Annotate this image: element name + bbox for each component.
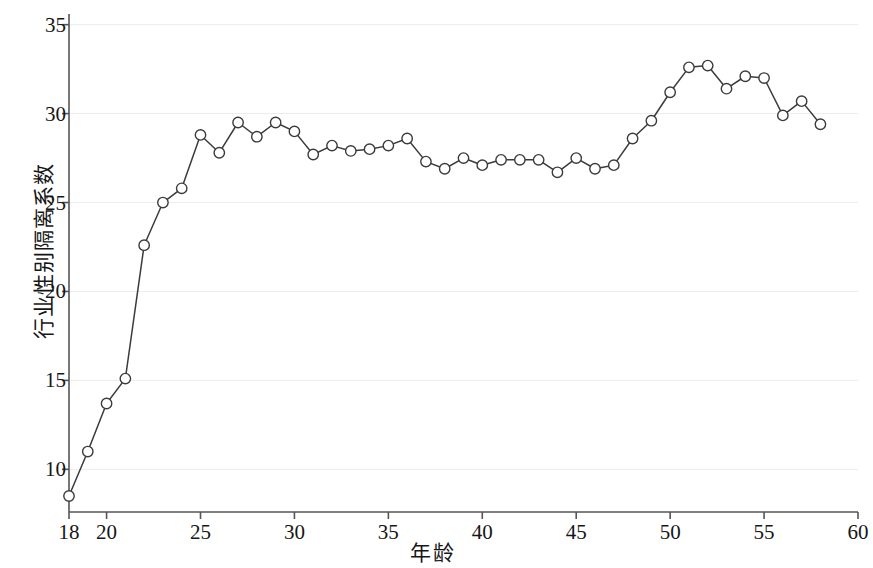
x-tick-label-60: 60 <box>828 520 873 545</box>
data-point-age-48 <box>627 133 637 143</box>
data-point-age-25 <box>195 130 205 140</box>
data-point-age-19 <box>83 446 93 456</box>
y-axis-tick-labels: 101520253035 <box>0 0 66 568</box>
y-tick-label-10: 10 <box>20 457 66 482</box>
tick-marks <box>62 25 858 519</box>
data-point-age-43 <box>533 155 543 165</box>
x-tick-label-30: 30 <box>264 520 324 545</box>
data-point-age-38 <box>440 164 450 174</box>
data-point-age-27 <box>233 117 243 127</box>
data-point-age-44 <box>552 167 562 177</box>
data-point-age-21 <box>120 373 130 383</box>
data-point-age-51 <box>684 62 694 72</box>
x-tick-label-25: 25 <box>171 520 231 545</box>
data-point-age-47 <box>609 160 619 170</box>
data-point-age-42 <box>515 155 525 165</box>
x-tick-label-45: 45 <box>546 520 606 545</box>
data-point-age-54 <box>740 71 750 81</box>
data-point-age-45 <box>571 153 581 163</box>
data-point-age-29 <box>270 117 280 127</box>
y-tick-label-30: 30 <box>20 101 66 126</box>
x-tick-label-35: 35 <box>358 520 418 545</box>
data-point-age-46 <box>590 164 600 174</box>
data-point-age-24 <box>177 183 187 193</box>
data-point-age-31 <box>308 149 318 159</box>
data-point-age-30 <box>289 126 299 136</box>
x-tick-label-55: 55 <box>734 520 794 545</box>
data-point-age-34 <box>364 144 374 154</box>
grid-lines <box>69 25 858 470</box>
data-point-age-22 <box>139 240 149 250</box>
x-axis-tick-labels: 18202530354045505560 <box>0 520 866 554</box>
data-point-age-28 <box>252 132 262 142</box>
series-markers <box>64 60 826 501</box>
data-point-age-53 <box>721 84 731 94</box>
data-point-age-55 <box>759 73 769 83</box>
data-point-age-41 <box>496 155 506 165</box>
data-point-age-49 <box>646 116 656 126</box>
data-point-age-26 <box>214 148 224 158</box>
data-series <box>64 60 826 501</box>
data-point-age-20 <box>101 398 111 408</box>
data-point-age-37 <box>421 156 431 166</box>
data-point-age-57 <box>796 96 806 106</box>
data-point-age-33 <box>346 146 356 156</box>
data-point-age-39 <box>458 153 468 163</box>
data-point-age-58 <box>815 119 825 129</box>
x-tick-label-50: 50 <box>640 520 700 545</box>
data-point-age-32 <box>327 140 337 150</box>
data-point-age-50 <box>665 87 675 97</box>
data-point-age-36 <box>402 133 412 143</box>
y-tick-label-25: 25 <box>20 190 66 215</box>
data-point-age-40 <box>477 160 487 170</box>
y-tick-label-15: 15 <box>20 368 66 393</box>
series-line-行业性别隔离系数 <box>69 66 820 496</box>
data-point-age-23 <box>158 197 168 207</box>
x-tick-label-40: 40 <box>452 520 512 545</box>
data-point-age-52 <box>703 60 713 70</box>
x-tick-label-20: 20 <box>77 520 137 545</box>
axis-spines <box>69 14 858 512</box>
y-tick-label-20: 20 <box>20 279 66 304</box>
data-point-age-56 <box>778 110 788 120</box>
data-point-age-35 <box>383 140 393 150</box>
y-tick-label-35: 35 <box>20 12 66 37</box>
